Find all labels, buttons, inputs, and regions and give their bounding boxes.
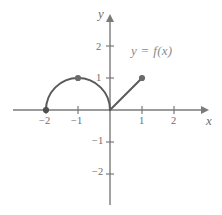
y-tick-label-plus-2: 2 <box>96 41 101 52</box>
point-semicircle-peak <box>75 75 81 81</box>
x-tick-label-minus-1: −1 <box>71 115 82 126</box>
x-tick-label-minus-2: −2 <box>39 115 50 126</box>
y-tick-label-plus-1: 1 <box>96 72 101 83</box>
y-axis-label: y <box>98 6 104 22</box>
function-graph-figure: y x y = f(x) −2 −1 1 2 2 1 −1 −2 <box>0 0 222 215</box>
y-tick-label-minus-1: −1 <box>92 135 103 146</box>
plot-canvas <box>0 0 222 215</box>
point-right-endpoint <box>139 75 145 81</box>
point-left-endpoint <box>43 107 49 113</box>
function-annotation: y = f(x) <box>131 43 172 59</box>
x-tick-label-plus-1: 1 <box>139 115 144 126</box>
x-axis-label: x <box>206 113 212 129</box>
x-tick-label-plus-2: 2 <box>171 115 176 126</box>
y-tick-label-minus-2: −2 <box>92 166 103 177</box>
curve-linear-branch <box>110 78 142 110</box>
